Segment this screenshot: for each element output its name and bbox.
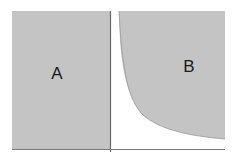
two-panel-diagram: A B xyxy=(0,0,235,160)
panel-a-label: A xyxy=(51,64,63,83)
panel-b-region xyxy=(119,11,225,139)
panel-b-label: B xyxy=(183,57,194,76)
